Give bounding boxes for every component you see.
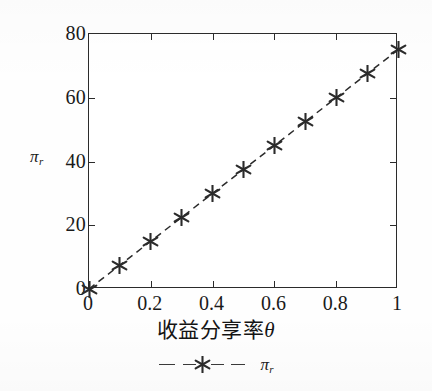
- x-axis-title-char: 享: [221, 318, 243, 342]
- legend-dash-inner-right: [211, 364, 224, 365]
- x-axis-title-char: 分: [200, 318, 222, 342]
- legend-entry-label-subscript: r: [269, 363, 273, 375]
- x-tick-label-0: 0: [58, 292, 118, 314]
- legend-entry-label-base: π: [261, 355, 270, 374]
- x-axis-title-char: 益: [178, 318, 200, 342]
- chart-figure: πr 80 60 40 20 0 0 0.2 0.4 0.6 0.8 1 收益分…: [0, 0, 432, 391]
- x-axis-title-char: 收: [157, 318, 179, 342]
- x-tick-label-1: 1: [367, 292, 427, 314]
- x-axis-title-theta: θ: [264, 318, 275, 342]
- asterisk-marker-icon: [194, 356, 211, 373]
- y-tick-label-60: 60: [26, 87, 86, 107]
- x-axis-title-char: 率: [243, 318, 265, 342]
- legend-dash-right: [231, 364, 245, 365]
- x-tick-label-0-8: 0.8: [305, 292, 365, 314]
- y-tick-label-40: 40: [26, 151, 86, 171]
- x-axis-title: 收益分享率θ: [0, 318, 432, 342]
- y-tick-label-20: 20: [26, 214, 86, 234]
- plot-area: [88, 33, 397, 288]
- legend-dash-left: [159, 364, 175, 365]
- legend-line-sample: [159, 355, 245, 375]
- x-tick-label-0-6: 0.6: [243, 292, 303, 314]
- series-line-pi-r: [88, 33, 397, 288]
- legend-entry-label: πr: [261, 355, 274, 375]
- chart-legend: πr: [0, 355, 432, 375]
- y-tick-label-80: 80: [26, 23, 86, 43]
- x-tick-label-0-4: 0.4: [182, 292, 242, 314]
- x-tick-label-0-2: 0.2: [120, 292, 180, 314]
